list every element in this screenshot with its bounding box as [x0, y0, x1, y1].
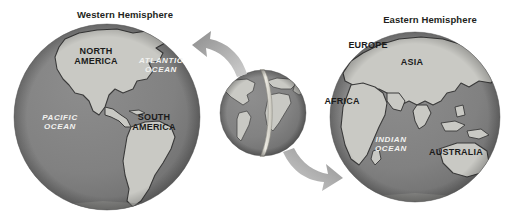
hemispheres-diagram: Western Hemisphere Eastern Hemisphere — [0, 0, 513, 221]
western-hemisphere-globe — [13, 23, 201, 211]
eastern-hemisphere-title: Eastern Hemisphere — [368, 14, 492, 25]
eastern-hemisphere-globe — [329, 31, 501, 203]
arrow-to-eastern-hemisphere — [283, 148, 343, 191]
whole-earth-globe — [219, 69, 307, 157]
western-hemisphere-title: Western Hemisphere — [60, 9, 190, 20]
sphere-shading — [14, 24, 200, 210]
arrow-to-western-hemisphere — [192, 31, 247, 77]
asia-edge-sliver — [15, 61, 23, 81]
sphere-shading — [330, 32, 500, 202]
